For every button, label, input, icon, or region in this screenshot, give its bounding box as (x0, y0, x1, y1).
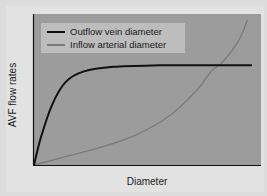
legend-item-outflow-vein: Outflow vein diameter (47, 25, 162, 38)
legend-label: Inflow arterial diameter (70, 39, 166, 50)
legend-swatch-inflow-arterial (47, 44, 65, 46)
legend-item-inflow-arterial: Inflow arterial diameter (47, 38, 166, 51)
legend-label: Outflow vein diameter (70, 26, 162, 37)
figure-frame: Outflow vein diameter Inflow arterial di… (0, 0, 267, 196)
y-axis-label: AVF flow rates (7, 63, 18, 127)
legend-swatch-outflow-vein (47, 31, 65, 33)
x-axis-label: Diameter (127, 176, 168, 187)
legend: Outflow vein diameter Inflow arterial di… (41, 23, 185, 53)
